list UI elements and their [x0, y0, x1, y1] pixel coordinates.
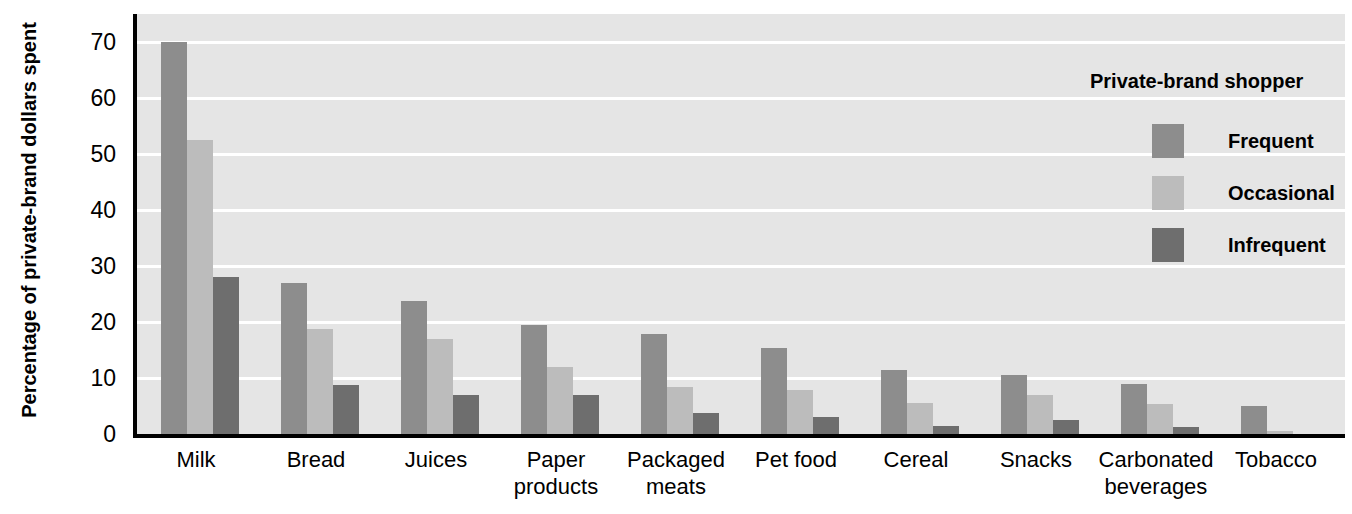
legend-item-frequent[interactable]: Frequent: [1090, 115, 1340, 167]
legend: Private-brand shopper FrequentOccasional…: [1090, 70, 1340, 271]
bar: [1241, 406, 1267, 434]
legend-item-infrequent[interactable]: Infrequent: [1090, 219, 1340, 271]
bar: [787, 390, 813, 434]
bar: [401, 301, 427, 434]
gridline: [137, 41, 1345, 44]
bar: [1053, 420, 1079, 434]
legend-item-label: Frequent: [1228, 130, 1314, 153]
bar: [693, 413, 719, 434]
bar: [307, 329, 333, 434]
x-axis-category-label: Pet food: [755, 446, 837, 473]
x-axis-category-label: Packaged meats: [627, 446, 725, 500]
bar: [333, 385, 359, 434]
x-axis-category-label: Snacks: [1000, 446, 1072, 473]
bar: [933, 426, 959, 434]
legend-item-label: Occasional: [1228, 182, 1335, 205]
bar: [547, 367, 573, 434]
bar: [521, 325, 547, 434]
y-axis-tick-label: 70: [90, 29, 116, 56]
y-axis-tick-label: 50: [90, 141, 116, 168]
bar: [1173, 427, 1199, 434]
legend-swatch-icon: [1152, 176, 1184, 210]
bar: [1027, 395, 1053, 434]
bar: [907, 403, 933, 434]
y-axis-tick-label: 10: [90, 365, 116, 392]
bar: [213, 277, 239, 434]
bar: [187, 140, 213, 434]
bar: [881, 370, 907, 434]
bar: [161, 42, 187, 434]
y-axis-title-text: Percentage of private-brand dollars spen…: [17, 22, 41, 418]
y-axis-tick-labels: 010203040506070: [62, 0, 124, 445]
y-axis-tick-label: 20: [90, 309, 116, 336]
x-axis-category-label: Cereal: [884, 446, 949, 473]
legend-swatch-icon: [1152, 228, 1184, 262]
bar: [1001, 375, 1027, 434]
bar: [453, 395, 479, 434]
x-axis-category-label: Juices: [405, 446, 467, 473]
bar: [281, 283, 307, 434]
x-axis-category-label: Carbonated beverages: [1099, 446, 1214, 500]
bar: [573, 395, 599, 434]
x-axis-category-label: Tobacco: [1235, 446, 1317, 473]
legend-items: FrequentOccasionalInfrequent: [1090, 115, 1340, 271]
bar: [427, 339, 453, 434]
bar: [813, 417, 839, 434]
legend-title: Private-brand shopper: [1090, 70, 1340, 93]
y-axis-tick-label: 30: [90, 253, 116, 280]
y-axis-tick-label: 0: [103, 421, 116, 448]
x-axis-category-label: Milk: [176, 446, 215, 473]
x-axis-category-label: Paper products: [514, 446, 598, 500]
bar: [641, 334, 667, 434]
x-axis-category-label: Bread: [287, 446, 346, 473]
bar: [1121, 384, 1147, 434]
bar-chart: Percentage of private-brand dollars spen…: [0, 0, 1352, 514]
bar: [667, 387, 693, 434]
legend-item-label: Infrequent: [1228, 234, 1326, 257]
bar: [1267, 431, 1293, 434]
gridline: [137, 321, 1345, 324]
y-axis-tick-label: 60: [90, 85, 116, 112]
legend-item-occasional[interactable]: Occasional: [1090, 167, 1340, 219]
bar: [1147, 404, 1173, 434]
bar: [761, 348, 787, 434]
y-axis-title: Percentage of private-brand dollars spen…: [0, 0, 58, 440]
x-axis-category-labels: MilkBreadJuicesPaper productsPackaged me…: [133, 446, 1345, 512]
y-axis-tick-label: 40: [90, 197, 116, 224]
legend-swatch-icon: [1152, 124, 1184, 158]
